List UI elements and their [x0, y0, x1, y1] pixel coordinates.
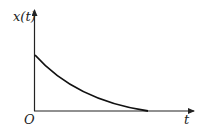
- origin-label: O: [24, 112, 35, 127]
- chart: x(t) O t: [0, 0, 207, 132]
- x-axis-label: t: [184, 112, 190, 127]
- decay-curve: [35, 55, 148, 111]
- y-axis-label: x(t): [13, 9, 36, 24]
